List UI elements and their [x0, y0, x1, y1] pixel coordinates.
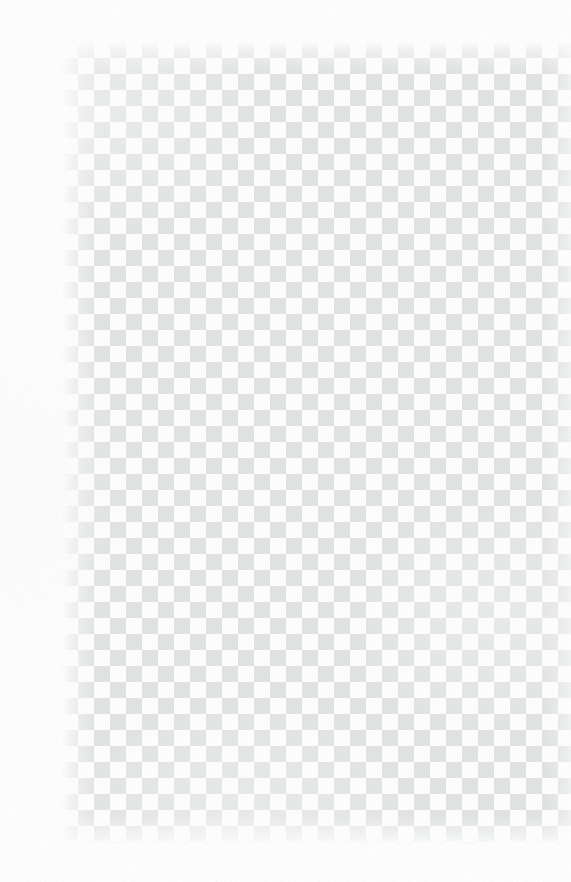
transparency-checkerboard: [62, 42, 571, 845]
checkerboard-horizontal-fade: [62, 42, 571, 845]
checkerboard-vertical-fade: [62, 42, 571, 845]
checkerboard-canvas: [0, 0, 571, 882]
